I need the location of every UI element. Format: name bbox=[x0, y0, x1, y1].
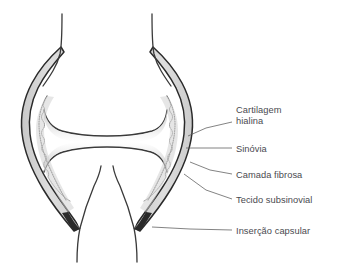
upper-bone-body bbox=[62, 14, 152, 98]
lower-bone-body bbox=[63, 166, 151, 252]
label-cartilagem-hialina: Cartilagem hialina bbox=[236, 105, 281, 128]
label-sinovia: Sinóvia bbox=[236, 144, 267, 155]
leader-line-camada-fibrosa bbox=[190, 162, 232, 174]
leader-line-cartilagem-hialina bbox=[188, 122, 232, 136]
leader-line-insercao-capsular bbox=[152, 227, 232, 230]
label-camada-fibrosa-line1: Camada fibrosa bbox=[236, 170, 302, 181]
label-cartilagem-hialina-line2: hialina bbox=[236, 116, 281, 127]
label-camada-fibrosa: Camada fibrosa bbox=[236, 170, 302, 181]
label-cartilagem-hialina-line1: Cartilagem bbox=[236, 105, 281, 116]
label-insercao-capsular-line1: Inserção capsular bbox=[236, 226, 310, 237]
label-sinovia-line1: Sinóvia bbox=[236, 144, 267, 155]
label-tecido-subsinovial: Tecido subsinovial bbox=[236, 195, 312, 206]
label-tecido-subsinovial-line1: Tecido subsinovial bbox=[236, 195, 312, 206]
joint-diagram-svg bbox=[0, 0, 342, 264]
lower-bone-shaft-right-lower bbox=[134, 228, 137, 262]
leader-line-tecido-subsinovial bbox=[184, 174, 232, 199]
label-insercao-capsular: Inserção capsular bbox=[236, 226, 310, 237]
lower-bone-shaft-left-lower bbox=[77, 228, 80, 262]
anatomical-figure: Cartilagem hialina Sinóvia Camada fibros… bbox=[0, 0, 342, 264]
